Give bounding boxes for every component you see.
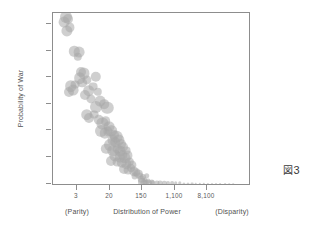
- x-axis: 3201501,1008,100: [0, 185, 329, 207]
- x-tick-mark: [174, 185, 175, 190]
- y-tick-mark: [46, 129, 51, 130]
- y-tick-mark: [46, 183, 51, 184]
- x-tick-mark: [76, 185, 77, 190]
- x-tick-label: 8,100: [198, 192, 215, 199]
- scatter-bubble: [101, 102, 113, 114]
- y-tick-mark: [46, 103, 51, 104]
- figure-caption-glyph: 図: [283, 165, 294, 176]
- x-tick-label: 1,100: [166, 192, 183, 199]
- scatter-bubble: [71, 80, 80, 89]
- scatter-bubble: [73, 52, 81, 60]
- x-axis-disparity-annotation: (Disparity): [215, 208, 249, 215]
- figure-caption-number: 3: [294, 164, 301, 176]
- scatter-bubble: [93, 88, 101, 96]
- y-tick-mark: [46, 23, 51, 24]
- figure-container: Probability of War 0.0000.0020.0040.0060…: [0, 0, 329, 240]
- x-tick-label: 3: [74, 192, 78, 199]
- y-tick-mark: [46, 156, 51, 157]
- y-tick-mark: [46, 76, 51, 77]
- y-tick-mark: [46, 50, 51, 51]
- scatter-bubble: [65, 23, 74, 32]
- x-tick-label: 20: [105, 192, 113, 199]
- x-tick-mark: [141, 185, 142, 190]
- x-tick-mark: [206, 185, 207, 190]
- x-tick-mark: [109, 185, 110, 190]
- x-tick-label: 150: [135, 192, 146, 199]
- x-axis-parity-annotation: (Parity): [65, 208, 89, 215]
- figure-caption: 図3: [283, 162, 300, 177]
- plot-area: [52, 12, 250, 185]
- x-axis-caption-row: (Parity) Distribution of Power (Disparit…: [0, 208, 329, 222]
- scatter-bubble-layer: [53, 13, 249, 184]
- scatter-bubble: [90, 71, 100, 81]
- x-axis-title: Distribution of Power: [113, 208, 181, 215]
